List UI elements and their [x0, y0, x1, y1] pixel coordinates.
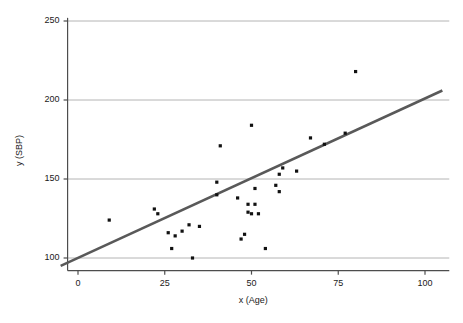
y-tick-label-200: 200 [0, 94, 60, 104]
fit-line [61, 91, 443, 266]
data-point [354, 70, 357, 73]
axis-ticks [64, 21, 425, 275]
data-point [181, 230, 184, 233]
data-point [198, 225, 201, 228]
data-point [243, 233, 246, 236]
x-tick-label-25: 25 [135, 278, 195, 288]
data-point [257, 212, 260, 215]
data-point [174, 234, 177, 237]
data-point [219, 144, 222, 147]
data-point [167, 231, 170, 234]
scatter-plot-figure: y (SBP) x (Age) 1001502002500255075100 [0, 0, 463, 323]
x-tick-label-75: 75 [308, 278, 368, 288]
data-point [278, 190, 281, 193]
y-tick-label-150: 150 [0, 173, 60, 183]
y-tick-label-250: 250 [0, 15, 60, 25]
data-point [187, 223, 190, 226]
data-point [344, 132, 347, 135]
data-point [309, 136, 312, 139]
x-tick-label-50: 50 [222, 278, 282, 288]
data-point [153, 207, 156, 210]
x-axis-title: x (Age) [223, 295, 283, 305]
data-point [274, 184, 277, 187]
y-tick-label-100: 100 [0, 252, 60, 262]
data-point [323, 143, 326, 146]
data-point [170, 247, 173, 250]
x-tick-label-0: 0 [48, 278, 108, 288]
y-axis-title: y (SBP) [14, 135, 24, 166]
data-point [281, 166, 284, 169]
plot-canvas [0, 0, 463, 323]
data-point [250, 124, 253, 127]
data-point [250, 212, 253, 215]
data-point [215, 181, 218, 184]
data-points [108, 70, 358, 260]
data-point [246, 211, 249, 214]
data-point [253, 203, 256, 206]
data-point [246, 203, 249, 206]
regression-line [61, 91, 443, 266]
data-point [278, 173, 281, 176]
data-point [264, 247, 267, 250]
x-tick-label-100: 100 [395, 278, 455, 288]
data-point [236, 196, 239, 199]
gridlines [68, 21, 450, 258]
data-point [108, 218, 111, 221]
data-point [191, 256, 194, 259]
data-point [253, 187, 256, 190]
data-point [295, 170, 298, 173]
data-point [239, 237, 242, 240]
axis-lines [68, 18, 450, 271]
data-point [156, 212, 159, 215]
data-point [215, 193, 218, 196]
